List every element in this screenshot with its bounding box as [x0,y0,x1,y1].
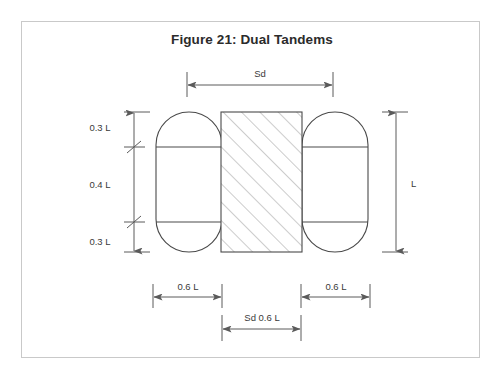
bottom-center-dimension-label: Sd 0.6 L [244,312,279,323]
right-dimension-l: L [382,112,416,252]
bottom-right-dimension-label: 0.6 L [325,281,346,292]
figure-container: Figure 21: Dual Tandems [0,0,504,380]
bottom-right-dimension: 0.6 L [301,281,370,308]
tire-shapes [156,92,368,274]
left-tire-shape [156,112,222,252]
bottom-left-dimension: 0.6 L [153,281,222,308]
left-dimension-label-middle: 0.4 L [89,179,110,190]
top-dimension-label: Sd [254,68,266,79]
left-dimension-label-lower: 0.3 L [89,236,110,247]
bottom-center-dimension: Sd 0.6 L [222,312,301,341]
left-dimension-chain: 0.3 L 0.4 L 0.3 L [89,112,150,252]
left-dimension-label-upper: 0.3 L [89,122,110,133]
bottom-left-dimension-label: 0.6 L [177,281,198,292]
right-dimension-label: L [411,178,416,189]
right-tire-shape [302,112,368,252]
top-dimension-sd: Sd [187,68,333,97]
dual-tandems-diagram: Sd 0.3 L 0.4 L 0.3 L L [0,0,504,380]
